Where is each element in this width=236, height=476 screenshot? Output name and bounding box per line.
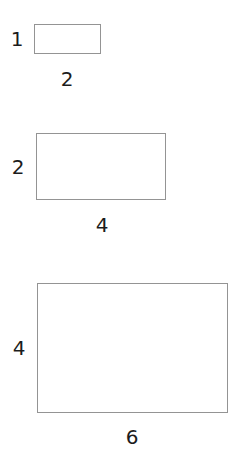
rectangle-large — [37, 283, 228, 413]
rectangle-medium — [36, 133, 166, 200]
height-label-medium: 2 — [12, 157, 25, 177]
height-label-large: 4 — [13, 338, 26, 358]
width-label-medium: 4 — [96, 215, 109, 235]
rectangle-small — [34, 24, 101, 54]
height-label-small: 1 — [11, 29, 24, 49]
width-label-large: 6 — [126, 427, 139, 447]
width-label-small: 2 — [61, 69, 74, 89]
figure-canvas: 1 2 2 4 4 6 — [0, 0, 236, 476]
